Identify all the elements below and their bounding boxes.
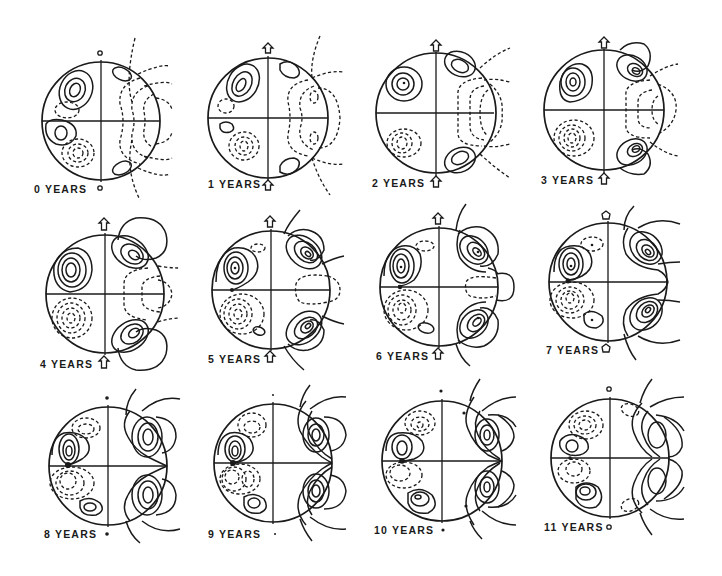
panel-label: 7 YEARS <box>546 344 599 356</box>
bottom-marker-dot-icon <box>441 528 444 531</box>
top-marker-dot-icon <box>439 389 442 392</box>
panel-label: 5 YEARS <box>208 353 261 365</box>
panel-label: 6 YEARS <box>376 350 429 362</box>
top-marker-arrow-icon <box>599 37 609 48</box>
top-marker-arrow-icon <box>99 218 109 230</box>
bottom-marker-dot-icon <box>105 532 109 536</box>
panel-1-years: 1 YEARS <box>200 40 380 210</box>
panel-label: 1 YEARS <box>208 178 261 190</box>
panel-0-years: 0 YEARS <box>20 40 200 210</box>
bottom-marker-pentagon-icon <box>602 344 610 352</box>
bottom-marker-arrow-icon <box>431 176 441 187</box>
panel-label: 11 YEARS <box>544 521 604 533</box>
panel-2-years: 2 YEARS <box>370 40 550 210</box>
panel-label: 3 YEARS <box>541 174 594 186</box>
top-marker-arrow-icon <box>263 43 273 53</box>
panel-label: 8 YEARS <box>44 528 97 540</box>
panel-label: 0 YEARS <box>34 183 87 195</box>
panel-11-years: 11 YEARS <box>540 375 720 545</box>
bottom-marker-circle-icon <box>607 525 611 529</box>
bottom-marker-arrow-icon <box>99 356 109 368</box>
panel-3-years: 3 YEARS <box>540 40 720 210</box>
top-marker-arrow-icon <box>433 213 443 224</box>
top-marker-circle-icon <box>607 387 611 391</box>
panel-label: 10 YEARS <box>374 524 434 536</box>
panel-10-years: 10 YEARS <box>370 375 550 545</box>
top-marker-dot-icon <box>105 396 109 400</box>
top-marker-circle-icon <box>98 51 102 55</box>
top-marker-arrow-icon <box>265 216 275 227</box>
panel-label: 4 YEARS <box>40 358 93 370</box>
top-marker-pentagon-icon <box>602 211 610 219</box>
bottom-marker-dot-icon <box>274 533 276 535</box>
top-marker-arrow-icon <box>431 40 441 51</box>
panel-4-years: 4 YEARS <box>20 210 200 380</box>
panel-8-years: 8 YEARS <box>20 375 200 545</box>
panel-9-years: 9 YEARS <box>200 375 380 545</box>
panel-5-years: 5 YEARS <box>200 210 380 380</box>
bottom-marker-arrow-icon <box>433 348 443 359</box>
panel-7-years: 7 YEARS <box>540 210 720 380</box>
panel-label: 9 YEARS <box>208 528 261 540</box>
contour-map-4 <box>20 210 200 380</box>
bottom-marker-arrow-icon <box>599 173 609 184</box>
panel-6-years: 6 YEARS <box>370 210 550 380</box>
bottom-marker-arrow-icon <box>265 351 275 362</box>
panel-label: 2 YEARS <box>372 177 425 189</box>
top-marker-dot-icon <box>272 394 274 396</box>
contour-map-figure: 0 YEARS <box>0 0 722 576</box>
bottom-marker-arrow-icon <box>263 180 273 190</box>
bottom-marker-circle-icon <box>98 186 102 190</box>
